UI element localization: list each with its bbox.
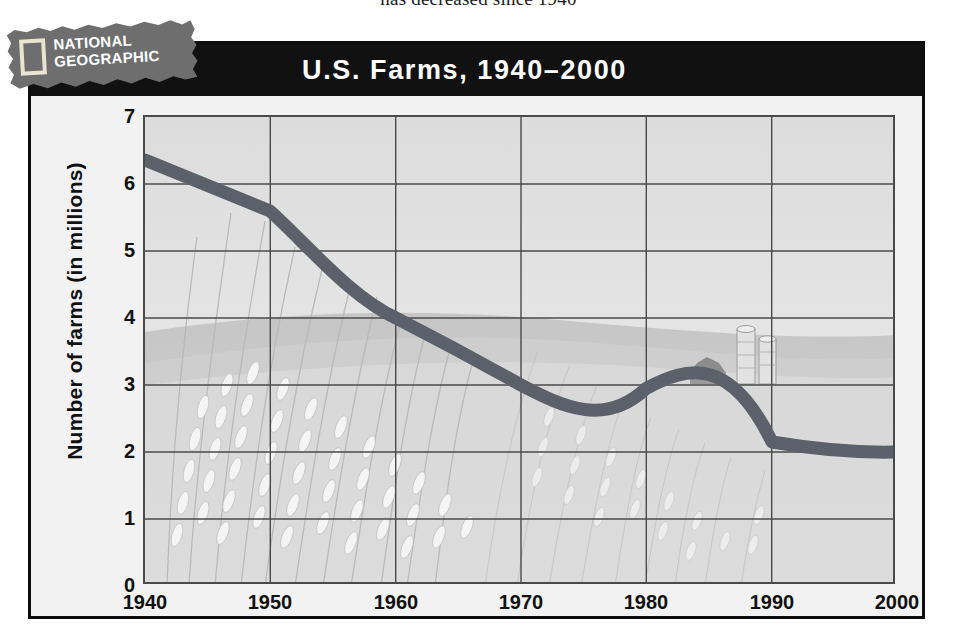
y-tick-3: 3	[101, 374, 135, 394]
x-tick-1960: 1960	[351, 592, 441, 612]
plot-svg	[145, 117, 895, 584]
x-tick-1980: 1980	[601, 592, 691, 612]
scene-illustration	[145, 117, 895, 584]
natgeo-frame-icon	[19, 38, 47, 75]
y-tick-4: 4	[101, 307, 135, 327]
top-caption: has decreased since 1940	[0, 0, 957, 10]
page-root: has decreased since 1940 U.S. Farms, 194…	[0, 0, 957, 643]
chart-figure: U.S. Farms, 1940–2000 Number of farms (i…	[28, 41, 925, 619]
y-tick-6: 6	[101, 173, 135, 193]
national-geographic-logo: NATIONAL GEOGRAPHIC	[4, 17, 204, 94]
x-tick-1950: 1950	[225, 592, 315, 612]
y-tick-5: 5	[101, 240, 135, 260]
y-axis-title: Number of farms (in millions)	[63, 101, 87, 521]
y-tick-7: 7	[101, 106, 135, 126]
x-tick-1940: 1940	[100, 592, 190, 612]
x-tick-1970: 1970	[476, 592, 566, 612]
x-tick-2000: 2000	[852, 592, 925, 612]
natgeo-wordmark: NATIONAL GEOGRAPHIC	[53, 30, 160, 70]
plot-area	[143, 115, 895, 584]
y-tick-2: 2	[101, 441, 135, 461]
x-tick-1990: 1990	[727, 592, 817, 612]
y-tick-1: 1	[101, 508, 135, 528]
